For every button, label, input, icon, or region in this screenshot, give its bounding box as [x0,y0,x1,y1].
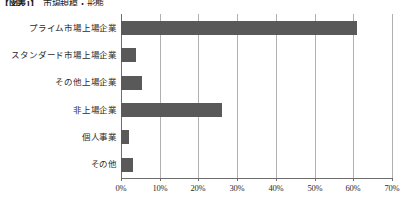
tick-mark [160,178,161,181]
x-tick-label: 40% [256,183,296,194]
bar [121,130,129,144]
bar-row [121,69,392,96]
tick-mark [315,178,316,181]
chart-figure: 【図表1】市場規模・形態 プライム市場上場企業スタンダード市場上場企業その他上場… [0,0,410,200]
category-label: その他 [0,159,117,169]
bar [121,76,142,90]
category-label: 個人事業 [0,132,117,142]
category-label: スタンダード市場上場企業 [0,50,117,60]
bar-row [121,14,392,41]
bar-row [121,41,392,68]
x-tick-label: 60% [333,183,373,194]
bar [121,21,357,35]
gridline [392,14,393,178]
bar-row [121,96,392,123]
tick-mark [392,178,393,181]
category-label: プライム市場上場企業 [0,23,117,33]
tick-mark [121,178,122,181]
tick-mark [276,178,277,181]
tick-mark [353,178,354,181]
x-tick-label: 30% [217,183,257,194]
x-tick-label: 10% [140,183,180,194]
tick-mark [198,178,199,181]
chart-title-text: 市場規模・形態 [43,0,104,6]
bar [121,158,133,172]
bar [121,103,222,117]
x-tick-label: 20% [178,183,218,194]
bar-row [121,123,392,150]
x-tick-label: 70% [372,183,410,194]
chart-title-tag: 【図表1】 [0,0,39,6]
bar [121,48,136,62]
category-label: その他上場企業 [0,77,117,87]
x-tick-label: 50% [295,183,335,194]
tick-mark [237,178,238,181]
category-label: 非上場企業 [0,105,117,115]
chart-title: 【図表1】市場規模・形態 [0,0,410,6]
bar-row [121,151,392,178]
x-tick-label: 0% [101,183,141,194]
